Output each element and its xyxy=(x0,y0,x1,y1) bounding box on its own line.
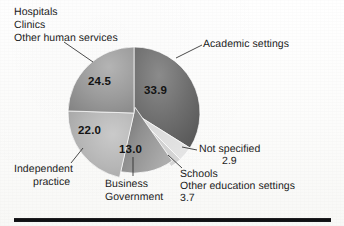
label-clinics: Clinics xyxy=(14,19,45,31)
label-hospitals: Hospitals xyxy=(14,6,58,18)
bottom-rule-divider xyxy=(14,218,331,222)
label-not-specified-value: 2.9 xyxy=(222,155,237,167)
slice-value-academic: 33.9 xyxy=(144,84,167,96)
leader-line-academic-settings xyxy=(176,45,202,58)
label-academic-settings: Academic settings xyxy=(203,38,289,50)
figure-page: 24.5 33.9 22.0 13.0 Hospitals Clinics Ot… xyxy=(0,0,344,226)
label-other-education-settings: Other education settings xyxy=(180,180,295,192)
leader-line-independent-practice xyxy=(71,148,83,163)
label-business: Business xyxy=(105,178,148,190)
label-government: Government xyxy=(105,191,163,203)
label-independent: Independent xyxy=(14,163,73,175)
slice-value-human-services: 24.5 xyxy=(88,75,111,87)
label-other-education-value: 3.7 xyxy=(180,192,195,204)
slice-value-independent-practice: 22.0 xyxy=(78,124,101,136)
leader-line-human-services xyxy=(64,42,93,62)
label-schools: Schools xyxy=(180,168,218,180)
slice-value-business-government: 13.0 xyxy=(119,143,142,155)
label-not-specified: Not specified xyxy=(199,143,260,155)
label-other-human-services: Other human services xyxy=(14,32,118,44)
label-practice: practice xyxy=(33,176,70,188)
